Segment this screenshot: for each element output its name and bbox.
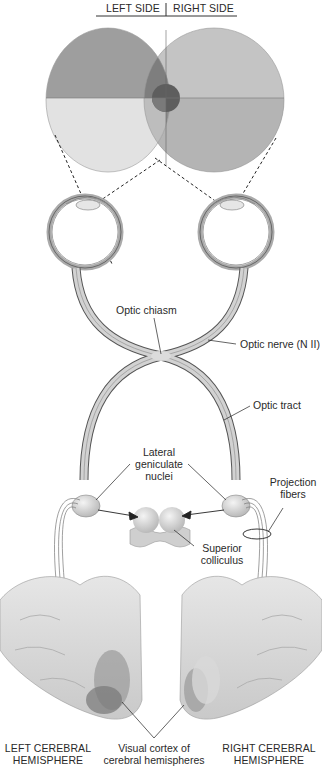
- lateral-geniculate-line1: Lateral: [128, 446, 190, 458]
- right-side-label: RIGHT SIDE: [173, 2, 234, 14]
- visual-cortex-line1: Visual cortex of: [100, 742, 208, 754]
- optic-nerve-label: Optic nerve (N II): [240, 338, 320, 350]
- visual-pathway-diagram: [0, 0, 322, 776]
- lateral-geniculate-label: Lateral geniculate nuclei: [128, 446, 190, 482]
- right-hemisphere-line2: HEMISPHERE: [220, 754, 318, 766]
- left-eye: [49, 196, 121, 268]
- projection-fibers-line2: fibers: [266, 488, 320, 500]
- left-cerebral-hemisphere: [0, 576, 142, 719]
- right-hemisphere-label: RIGHT CEREBRAL HEMISPHERE: [220, 742, 318, 766]
- right-hemisphere-line1: RIGHT CEREBRAL: [220, 742, 318, 754]
- visual-cortex-label: Visual cortex of cerebral hemispheres: [100, 742, 208, 766]
- lateral-geniculate-line3: nuclei: [128, 470, 190, 482]
- superior-colliculus-line1: Superior: [196, 542, 248, 554]
- superior-colliculus-line2: colliculus: [196, 554, 248, 566]
- left-hemisphere-line2: HEMISPHERE: [0, 754, 96, 766]
- visual-field: [44, 26, 286, 174]
- projection-fibers-label: Projection fibers: [266, 476, 320, 500]
- optic-tract-label: Optic tract: [253, 399, 301, 411]
- right-eye: [200, 196, 272, 268]
- left-side-label: LEFT SIDE: [106, 2, 160, 14]
- visual-cortex-line2: cerebral hemispheres: [100, 754, 208, 766]
- right-cerebral-hemisphere: [180, 576, 322, 719]
- projection-fibers-line1: Projection: [266, 476, 320, 488]
- superior-colliculus: [130, 507, 190, 547]
- optic-chiasm-label: Optic chiasm: [116, 304, 177, 316]
- left-hemisphere-line1: LEFT CEREBRAL: [0, 742, 96, 754]
- superior-colliculus-label: Superior colliculus: [196, 542, 248, 566]
- lateral-geniculate-line2: geniculate: [128, 458, 190, 470]
- left-hemisphere-label: LEFT CEREBRAL HEMISPHERE: [0, 742, 96, 766]
